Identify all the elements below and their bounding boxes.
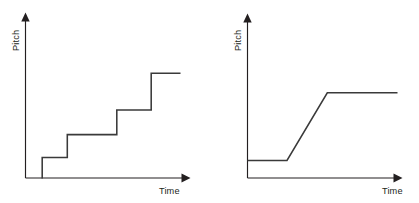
x-axis-arrowhead-icon	[394, 174, 403, 183]
x-axis-stepwise	[26, 174, 191, 183]
y-axis-stepwise	[21, 13, 29, 179]
y-axis-arrowhead-icon	[21, 13, 29, 22]
y-axis-label-pitch: Pitch	[11, 30, 21, 51]
stepwise-plot-svg: Pitch Time	[0, 0, 210, 203]
stepwise-series-line	[42, 73, 180, 178]
y-axis-label-pitch: Pitch	[233, 30, 243, 51]
y-axis-arrowhead-icon	[243, 14, 251, 23]
chart-panel-stepwise: Pitch Time	[0, 0, 210, 203]
ramp-plot-svg: Pitch Time	[210, 0, 419, 203]
y-axis-ramp	[243, 14, 251, 179]
chart-panel-ramp: Pitch Time	[210, 0, 419, 203]
x-axis-label-time: Time	[159, 186, 180, 196]
x-axis-ramp	[248, 174, 403, 183]
x-axis-arrowhead-icon	[182, 174, 191, 183]
x-axis-label-time: Time	[382, 186, 403, 196]
ramp-series-line	[248, 93, 398, 161]
figure-root: Pitch Time Pitch Time	[0, 0, 419, 203]
